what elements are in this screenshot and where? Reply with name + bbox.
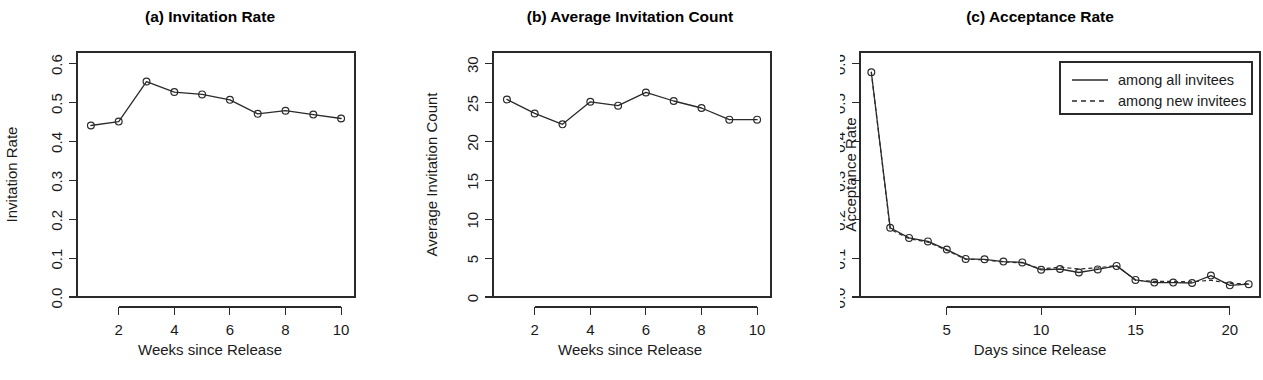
chart-svg-a: (a) Invitation Rate0.00.10.20.30.40.50.6…	[0, 0, 420, 380]
x-tick-label: 15	[1127, 321, 1144, 338]
plot-frame	[493, 52, 771, 297]
chart-svg-c: (c) Acceptance Rate0.00.10.20.30.40.50.6…	[840, 0, 1263, 380]
series-line	[507, 92, 757, 124]
x-tick-label: 10	[333, 321, 350, 338]
y-tick-label: 0.5	[48, 93, 65, 114]
y-axis-title: Acceptance Rate	[842, 117, 859, 231]
x-tick-label: 2	[115, 321, 123, 338]
panel-title: (c) Acceptance Rate	[966, 8, 1114, 25]
legend-label: among new invitees	[1118, 93, 1246, 109]
x-tick-label: 10	[749, 321, 766, 338]
x-axis-title: Weeks since Release	[138, 341, 282, 358]
plot-frame	[77, 52, 355, 297]
y-tick-label: 25	[464, 95, 481, 112]
x-tick-label: 10	[1033, 321, 1050, 338]
chart-panel-b: (b) Average Invitation Count051015202530…	[420, 0, 840, 380]
x-tick-label: 8	[281, 321, 289, 338]
y-tick-label: 0.0	[840, 288, 848, 309]
x-tick-label: 4	[586, 321, 594, 338]
x-tick-label: 6	[642, 321, 650, 338]
y-tick-label: 15	[464, 173, 481, 190]
legend-label: among all invitees	[1118, 72, 1234, 88]
x-axis-title: Weeks since Release	[558, 341, 702, 358]
y-tick-label: 0.2	[48, 210, 65, 231]
y-tick-label: 5	[464, 255, 481, 263]
x-tick-label: 20	[1221, 321, 1238, 338]
x-tick-label: 2	[531, 321, 539, 338]
y-tick-label: 30	[464, 56, 481, 73]
figure-root: (a) Invitation Rate0.00.10.20.30.40.50.6…	[0, 0, 1263, 380]
x-tick-label: 8	[697, 321, 705, 338]
y-tick-label: 0.6	[840, 54, 848, 75]
y-axis-title: Invitation Rate	[3, 127, 20, 223]
series-line	[91, 82, 341, 126]
x-axis-title: Days since Release	[974, 341, 1107, 358]
chart-svg-b: (b) Average Invitation Count051015202530…	[420, 0, 840, 380]
y-tick-label: 0.1	[48, 249, 65, 270]
x-tick-label: 6	[226, 321, 234, 338]
panel-title: (a) Invitation Rate	[145, 8, 275, 25]
y-tick-label: 0.6	[48, 54, 65, 75]
x-tick-label: 5	[943, 321, 951, 338]
chart-panel-c: (c) Acceptance Rate0.00.10.20.30.40.50.6…	[840, 0, 1263, 380]
y-tick-label: 0.5	[840, 93, 848, 114]
y-tick-label: 0	[464, 294, 481, 302]
panel-title: (b) Average Invitation Count	[527, 8, 733, 25]
y-tick-label: 0.0	[48, 288, 65, 309]
y-tick-label: 0.3	[48, 171, 65, 192]
y-tick-label: 20	[464, 134, 481, 151]
chart-panel-a: (a) Invitation Rate0.00.10.20.30.40.50.6…	[0, 0, 420, 380]
y-tick-label: 0.1	[840, 249, 848, 270]
y-axis-title: Average Invitation Count	[423, 92, 440, 257]
x-tick-label: 4	[170, 321, 178, 338]
y-tick-label: 10	[464, 212, 481, 229]
y-tick-label: 0.4	[48, 132, 65, 153]
